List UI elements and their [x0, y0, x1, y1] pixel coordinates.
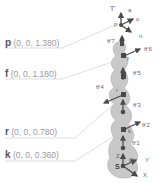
axis-label-o: o — [136, 16, 139, 23]
joint-label-4: θ'4 — [96, 84, 104, 91]
point-name-k: k — [5, 149, 11, 160]
point-label-r: r (0, 0, 0.780) — [5, 127, 57, 137]
axis-label-z: Z — [116, 153, 120, 160]
joint-label-1: θ'1 — [132, 140, 140, 147]
point-name-r: r — [5, 126, 9, 137]
link-label-f: f — [127, 56, 129, 63]
point-label-f: f (0, 0, 1.180) — [5, 69, 57, 79]
joint-label-6: θ'6 — [144, 46, 152, 53]
point-label-k: k (0, 0, 0.360) — [5, 150, 59, 160]
link-label-k: k — [128, 128, 131, 135]
axis-label-a: a — [128, 7, 131, 14]
tool-frame — [119, 13, 133, 32]
joint-label-5: θ'5 — [133, 70, 141, 77]
point-name-p: p — [5, 37, 11, 48]
axis-label-y: Y — [145, 157, 149, 164]
link-label-r: r — [116, 87, 118, 94]
joint-label-2: θ'2 — [142, 122, 150, 129]
tool-frame-label: T' — [110, 5, 116, 12]
point-coords-k: (0, 0, 0.360) — [13, 150, 59, 160]
origin-label-o: O — [129, 157, 134, 164]
point-coords-p: (0, 0, 1.380) — [13, 38, 59, 48]
point-coords-r: (0, 0, 0.780) — [11, 127, 57, 137]
joint-label-3: θ'3 — [133, 102, 141, 109]
base-frame-label: S — [115, 163, 120, 170]
axis-label-x: X — [143, 172, 147, 179]
point-coords-f: (0, 0, 1.180) — [11, 69, 57, 79]
joint-label-7: θ'7 — [107, 38, 115, 45]
axis-label-n: n — [139, 33, 142, 40]
point-marker-p: p — [114, 21, 117, 28]
point-name-f: f — [5, 68, 8, 79]
point-label-p: p (0, 0, 1.380) — [5, 38, 59, 48]
